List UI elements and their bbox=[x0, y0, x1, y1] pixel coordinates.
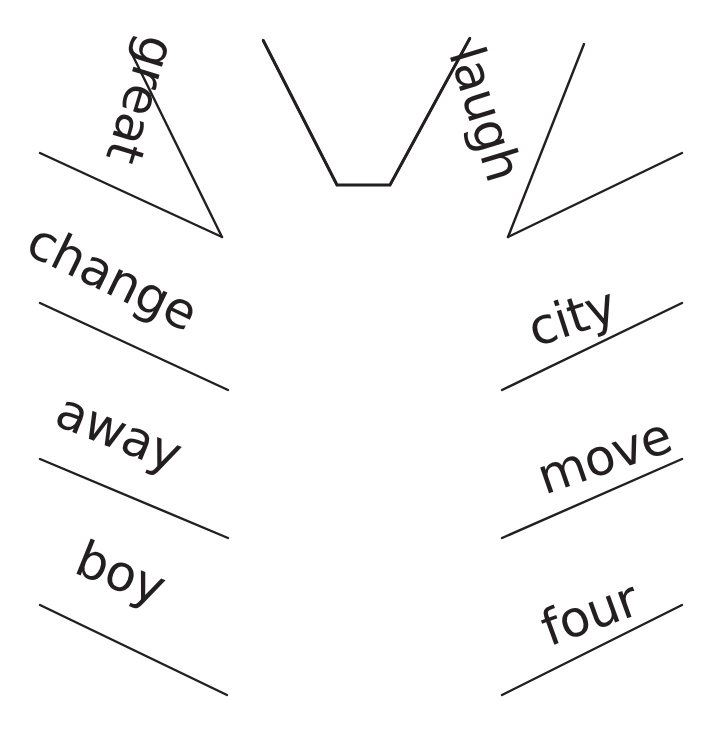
word-fan-canvas: greatchangeawayboylaughcitymovefour bbox=[0, 0, 718, 733]
spoke-away-bot bbox=[40, 459, 228, 538]
spoke-city-top bbox=[508, 153, 682, 237]
spoke-boy-bot bbox=[40, 605, 227, 695]
